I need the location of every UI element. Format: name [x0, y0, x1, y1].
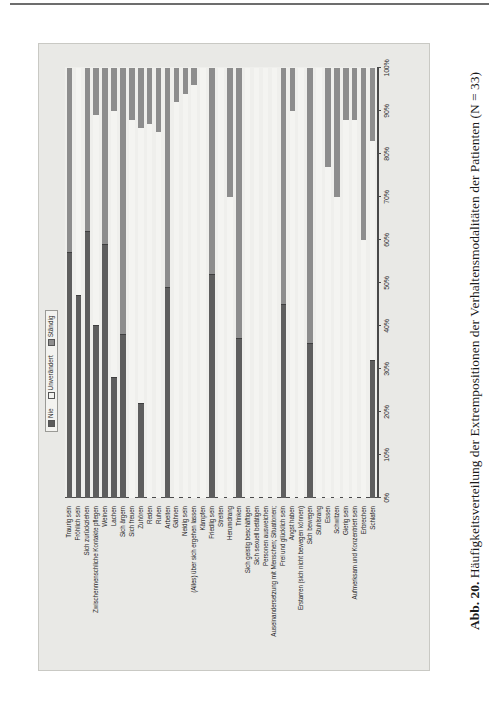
bar-segment-unverändert [351, 120, 357, 498]
bar-segment-nie [120, 334, 126, 498]
legend-item-nie: Nie [48, 408, 55, 427]
category-label: Stuhlsrang [315, 506, 321, 535]
bar-row [316, 68, 322, 498]
bar-row [334, 68, 340, 498]
bar-segment-ständig [155, 68, 161, 133]
bar-segment-ständig [191, 68, 197, 85]
bar-row [307, 68, 313, 498]
category-label: Sich freuen [128, 506, 134, 537]
bar-segment-ständig [120, 68, 126, 334]
bar-segment-unverändert [191, 85, 197, 498]
category-label: Friedlig sein [208, 506, 214, 539]
category-label: Streiten [217, 506, 223, 527]
bar-segment-nie [280, 304, 286, 498]
bar-segment-ständig [307, 68, 313, 343]
chart-figure: NieUnverändertStändig 0%10%20%30%40%50%6… [38, 43, 430, 671]
category-label: Erstarren (sich nicht bewegen können) [298, 506, 304, 610]
bar-segment-ständig [146, 68, 152, 124]
category-label: Reden [146, 506, 152, 524]
x-tick-label: 90% [383, 104, 390, 117]
x-tick-mark [377, 196, 381, 197]
category-label: Sich ärgern [119, 506, 125, 537]
bar-row [369, 68, 375, 498]
bar-row [209, 68, 215, 498]
bar-segment-ständig [289, 68, 295, 111]
category-label: Sich zurückziehen [84, 506, 90, 555]
legend-label: Unverändert [48, 355, 54, 390]
x-tick-mark [377, 411, 381, 412]
bar-segment-ständig [351, 68, 357, 120]
category-label: Auseinandersetzung mit Menschen; Situati… [271, 506, 277, 637]
bar-segment-nie [307, 343, 313, 498]
bar-row [75, 68, 81, 498]
bar-row [244, 68, 250, 498]
bar-row [93, 68, 99, 498]
bar-segment-ständig [164, 68, 170, 287]
figure-caption: Abb. 20. Häufigkeitsverteilung der Extre… [455, 0, 495, 702]
bar-row [280, 68, 286, 498]
bar-row [325, 68, 331, 498]
bar-segment-ständig [236, 68, 242, 338]
bar-row [191, 68, 197, 498]
bar-segment-unverändert [218, 68, 224, 498]
bar-row [343, 68, 349, 498]
bar-segment-ständig [334, 68, 340, 197]
category-label: Erbrechen [360, 506, 366, 534]
category-label: Lachen [110, 506, 116, 526]
category-label: Gähnen [173, 506, 179, 528]
bar-row [200, 68, 206, 498]
bar-row [182, 68, 188, 498]
bar-segment-ständig [209, 68, 215, 274]
bar-segment-unverändert [253, 68, 259, 498]
x-tick-label: 80% [383, 147, 390, 160]
chart-legend: NieUnverändertStändig [45, 310, 58, 432]
bar-segment-unverändert [146, 124, 152, 498]
bar-row [218, 68, 224, 498]
x-tick-mark [377, 67, 381, 68]
bar-segment-unverändert [138, 128, 144, 403]
x-tick-label: 100% [383, 59, 390, 76]
bar-row [236, 68, 242, 498]
x-tick-mark [377, 239, 381, 240]
category-label: Schlafen [369, 506, 375, 530]
bar-segment-unverändert [182, 94, 188, 498]
bar-row [289, 68, 295, 498]
bar-segment-ständig [102, 68, 108, 244]
category-label: Fröhlich sein [75, 506, 81, 540]
bar-row [173, 68, 179, 498]
x-axis-line [377, 68, 379, 498]
bar-segment-nie [75, 295, 81, 498]
category-label: Neidig sein [182, 506, 188, 536]
bar-segment-nie [111, 377, 117, 498]
x-tick-label: 20% [383, 405, 390, 418]
bar-segment-unverändert [325, 167, 331, 498]
category-label: Zwischenmenschliche Kontakte pflegen [93, 506, 99, 613]
category-label: Zuhören [137, 506, 143, 529]
x-tick-label: 0% [383, 493, 390, 503]
bar-segment-nie [102, 244, 108, 498]
category-label: Trinken [235, 506, 241, 526]
bar-segment-unverändert [289, 111, 295, 498]
legend-item-ständig: Ständig [48, 316, 55, 347]
x-tick-label: 40% [383, 319, 390, 332]
bar-row [262, 68, 268, 498]
bar-segment-nie [93, 325, 99, 498]
bar-row [351, 68, 357, 498]
category-label: Personen ausweichen [262, 506, 268, 566]
legend-label: Nie [48, 408, 54, 418]
category-label: Essen [324, 506, 330, 523]
bar-row [253, 68, 259, 498]
bar-segment-ständig [280, 68, 286, 304]
bar-segment-unverändert [155, 133, 161, 499]
x-tick-mark [377, 282, 381, 283]
category-label: Herumdrang [226, 506, 232, 540]
bar-segment-unverändert [173, 102, 179, 498]
bar-row [120, 68, 126, 498]
legend-swatch-icon [48, 392, 55, 399]
bar-segment-ständig [325, 68, 331, 167]
bar-segment-unverändert [334, 197, 340, 498]
bar-segment-unverändert [244, 68, 250, 498]
bar-segment-ständig [227, 68, 233, 197]
bar-segment-ständig [360, 68, 366, 240]
legend-label: Ständig [48, 316, 54, 338]
